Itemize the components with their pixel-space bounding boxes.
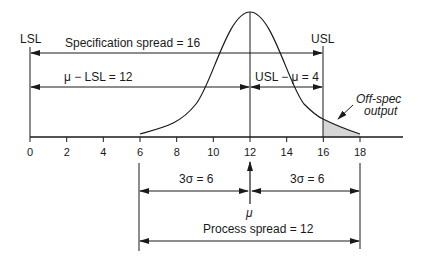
tick-label: 14 xyxy=(281,146,293,158)
usl-minus-mu-label: USL − μ = 4 xyxy=(255,70,319,84)
tick-label: 10 xyxy=(207,146,219,158)
mu-minus-lsl-label: μ − LSL = 12 xyxy=(64,70,133,84)
tick-label: 6 xyxy=(137,146,143,158)
mu-label: μ xyxy=(245,206,253,220)
off-spec-pointer-arrow xyxy=(338,105,353,119)
off-spec-label-line2: output xyxy=(364,104,398,118)
usl-label: USL xyxy=(311,32,335,46)
lsl-label: LSL xyxy=(20,32,42,46)
tick-label: 4 xyxy=(100,146,106,158)
tick-label: 8 xyxy=(174,146,180,158)
process-capability-diagram: 0 2 4 6 8 10 12 14 16 18 LSL USL Specifi… xyxy=(0,0,421,266)
process-spread-label: Process spread = 12 xyxy=(203,222,314,236)
three-sigma-left-label: 3σ = 6 xyxy=(179,172,214,186)
spec-spread-label: Specification spread = 16 xyxy=(65,36,200,50)
tick-label: 18 xyxy=(354,146,366,158)
tick-label: 16 xyxy=(317,146,329,158)
tick-label: 12 xyxy=(244,146,256,158)
tick-label: 0 xyxy=(27,146,33,158)
three-sigma-right-label: 3σ = 6 xyxy=(290,172,325,186)
x-tick-labels: 0 2 4 6 8 10 12 14 16 18 xyxy=(27,146,366,158)
tick-label: 2 xyxy=(64,146,70,158)
